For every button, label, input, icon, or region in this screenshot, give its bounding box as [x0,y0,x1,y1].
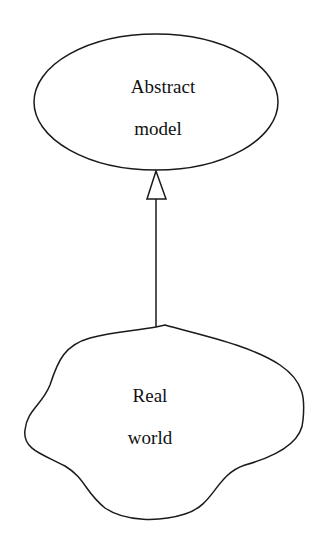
real-world-node: Real world [25,325,304,519]
diagram-canvas: Abstract model Real world [0,0,318,546]
realization-edge [147,171,166,327]
cloud-shape [25,325,304,519]
ellipse-shape [34,34,278,170]
abstract-model-label-line1: Abstract [131,76,196,97]
real-world-label-line1: Real [133,385,168,406]
abstract-model-label-line2: model [134,118,182,139]
real-world-label-line2: world [128,427,173,448]
abstract-model-node: Abstract model [34,34,278,170]
hollow-triangle-arrowhead-icon [147,171,166,199]
